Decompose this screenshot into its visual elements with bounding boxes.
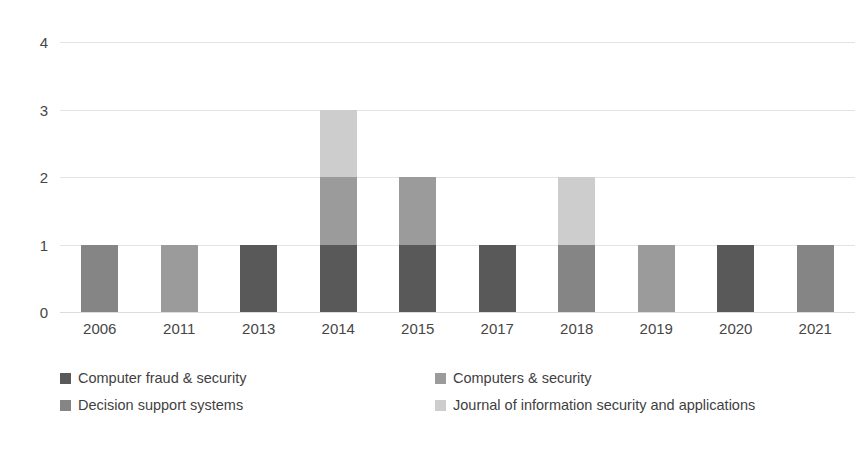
bar-segment[interactable]	[320, 177, 357, 245]
y-tick-2: 2	[14, 170, 48, 185]
y-axis: 4 3 2 1 0	[0, 42, 48, 312]
x-tick-2018: 2018	[542, 318, 612, 339]
bars-layer	[60, 42, 855, 312]
stacked-bar-chart: 4 3 2 1 0 200620112013201420152017201820…	[0, 0, 868, 453]
x-tick-2006: 2006	[65, 318, 135, 339]
bar-segment[interactable]	[638, 245, 675, 313]
bar-group[interactable]	[240, 245, 277, 313]
legend-swatch-icon	[435, 373, 446, 384]
bar-group[interactable]	[399, 177, 436, 312]
bar-segment[interactable]	[797, 245, 834, 313]
x-tick-2021: 2021	[780, 318, 850, 339]
y-tick-1: 1	[14, 237, 48, 252]
x-axis: 2006201120132014201520172018201920202021	[60, 318, 855, 342]
bar-segment[interactable]	[558, 245, 595, 313]
x-tick-2014: 2014	[303, 318, 373, 339]
bar-group[interactable]	[717, 245, 754, 313]
bar-segment[interactable]	[240, 245, 277, 313]
legend-label: Computers & security	[453, 371, 592, 386]
legend-item-decision-support-systems[interactable]: Decision support systems	[60, 398, 435, 413]
bar-segment[interactable]	[320, 245, 357, 313]
bar-group[interactable]	[320, 110, 357, 313]
legend-swatch-icon	[435, 400, 446, 411]
y-tick-0: 0	[14, 305, 48, 320]
chart-legend: Computer fraud & security Computers & se…	[60, 365, 850, 419]
bar-segment[interactable]	[717, 245, 754, 313]
bar-group[interactable]	[479, 245, 516, 313]
bar-segment[interactable]	[161, 245, 198, 313]
bar-group[interactable]	[161, 245, 198, 313]
x-tick-2013: 2013	[224, 318, 294, 339]
legend-row-1: Computer fraud & security Computers & se…	[60, 365, 850, 392]
bar-group[interactable]	[558, 177, 595, 312]
gridline-0-baseline	[60, 312, 855, 313]
legend-swatch-icon	[60, 373, 71, 384]
bar-segment[interactable]	[320, 110, 357, 178]
bar-segment[interactable]	[399, 177, 436, 245]
x-tick-2020: 2020	[701, 318, 771, 339]
bar-segment[interactable]	[479, 245, 516, 313]
y-tick-4: 4	[14, 35, 48, 50]
legend-item-computers-and-security[interactable]: Computers & security	[435, 371, 835, 386]
bar-segment[interactable]	[399, 245, 436, 313]
legend-label: Computer fraud & security	[78, 371, 246, 386]
bar-group[interactable]	[797, 245, 834, 313]
legend-item-computer-fraud-and-security[interactable]: Computer fraud & security	[60, 371, 435, 386]
bar-group[interactable]	[81, 245, 118, 313]
legend-item-journal-of-information-security-and-applications[interactable]: Journal of information security and appl…	[435, 398, 835, 413]
x-tick-2011: 2011	[144, 318, 214, 339]
y-tick-3: 3	[14, 102, 48, 117]
legend-label: Decision support systems	[78, 398, 243, 413]
x-tick-2017: 2017	[462, 318, 532, 339]
legend-row-2: Decision support systems Journal of info…	[60, 392, 850, 419]
bar-group[interactable]	[638, 245, 675, 313]
x-tick-2015: 2015	[383, 318, 453, 339]
bar-segment[interactable]	[81, 245, 118, 313]
legend-swatch-icon	[60, 400, 71, 411]
x-tick-2019: 2019	[621, 318, 691, 339]
bar-segment[interactable]	[558, 177, 595, 245]
legend-label: Journal of information security and appl…	[453, 398, 755, 413]
